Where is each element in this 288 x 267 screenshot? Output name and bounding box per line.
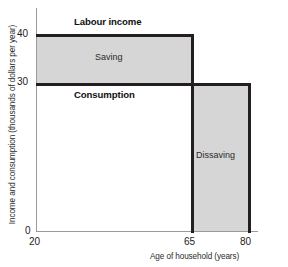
consumption-line-retired [191, 83, 251, 86]
consumption-line [36, 83, 194, 86]
x-tick-80: 80 [240, 236, 251, 247]
consumption-end-at-80 [248, 83, 251, 233]
y-tick-30: 30 [17, 76, 28, 87]
income-drop-at-65-upper [191, 34, 194, 86]
lifecycle-income-consumption-chart: Income and consumption (thousands of dol… [0, 0, 288, 267]
x-tick-20: 20 [29, 236, 40, 247]
labour-income-label: Labour income [74, 16, 141, 27]
dissaving-label: Dissaving [196, 150, 235, 160]
y-tick-0: 0 [25, 225, 31, 236]
y-axis-line [36, 8, 37, 232]
labour-income-line [36, 34, 194, 37]
x-axis-label: Age of household (years) [150, 252, 239, 261]
x-tick-65: 65 [184, 236, 195, 247]
x-axis-line [36, 231, 258, 232]
income-drop-at-65-lower [191, 83, 194, 233]
y-tick-40: 40 [17, 28, 28, 39]
y-axis-label: Income and consumption (thousands of dol… [8, 9, 17, 241]
consumption-label: Consumption [74, 89, 135, 100]
saving-label: Saving [95, 52, 123, 62]
